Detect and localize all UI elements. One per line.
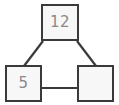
node-bottom-left-label: 5 bbox=[18, 76, 28, 91]
diagram-canvas: 12 5 bbox=[0, 0, 119, 105]
node-bottom-left[interactable]: 5 bbox=[5, 65, 42, 102]
node-top[interactable]: 12 bbox=[41, 4, 79, 41]
node-top-label: 12 bbox=[50, 15, 70, 30]
node-bottom-right[interactable] bbox=[77, 65, 114, 102]
edge-top-to-bottom-right bbox=[77, 41, 96, 66]
edge-top-to-bottom-left bbox=[24, 41, 43, 66]
